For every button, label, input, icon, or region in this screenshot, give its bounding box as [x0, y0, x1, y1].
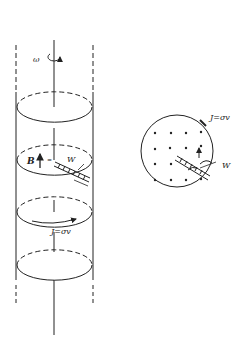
current-label-right: J=σv — [208, 113, 230, 122]
wire-w — [54, 162, 90, 186]
diagram-canvas: = ω B W J=σv J=σv — [0, 0, 244, 350]
current-label-left: J=σv — [49, 227, 71, 236]
cross-section-figure — [141, 115, 216, 187]
cylinder-figure: = — [16, 40, 93, 335]
disc3-front — [17, 212, 92, 227]
rim-current-arrow-icon — [200, 120, 206, 126]
wire-label-left: W — [67, 155, 76, 164]
disc4-front — [17, 265, 92, 280]
wire-label-right: W — [222, 161, 231, 170]
b-field-label: B — [26, 156, 35, 166]
disc1-front — [17, 107, 92, 122]
disc4-back — [17, 250, 92, 265]
field-dots — [154, 131, 202, 181]
current-arrow-icon — [32, 219, 76, 223]
omega-label: ω — [33, 55, 40, 64]
w-pointer — [200, 161, 212, 164]
svg-text:=: = — [47, 156, 52, 163]
